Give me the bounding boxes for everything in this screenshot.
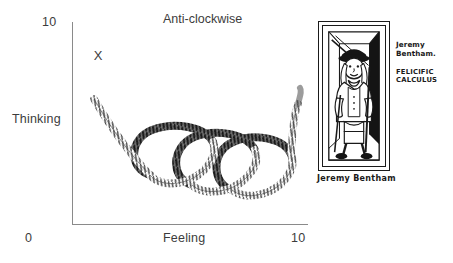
x-marker-icon: X — [91, 48, 105, 64]
spiral-coils — [94, 88, 301, 196]
x-axis-title: Feeling — [163, 231, 205, 245]
x-axis-line — [72, 224, 308, 225]
portrait-caption: Jeremy Bentham — [317, 174, 396, 183]
portrait-frame-inner — [322, 25, 386, 167]
x-axis-min-tick-label: 0 — [25, 231, 32, 245]
x-axis-max-tick-label: 10 — [291, 231, 305, 245]
bentham-caricature-illustration — [323, 26, 385, 166]
portrait-name-note: Jeremy Bentham. — [396, 40, 436, 58]
portrait-frame — [318, 21, 390, 171]
y-axis-title: Thinking — [12, 112, 61, 126]
portrait-term-note: FELICIFIC CALCULUS — [396, 68, 437, 85]
chart-title: Anti-clockwise — [163, 12, 242, 26]
y-axis-line — [72, 22, 73, 225]
figure-canvas: Anti-clockwise 10 Thinking 0 Feeling 10 … — [0, 0, 453, 263]
y-axis-max-tick-label: 10 — [42, 15, 56, 29]
